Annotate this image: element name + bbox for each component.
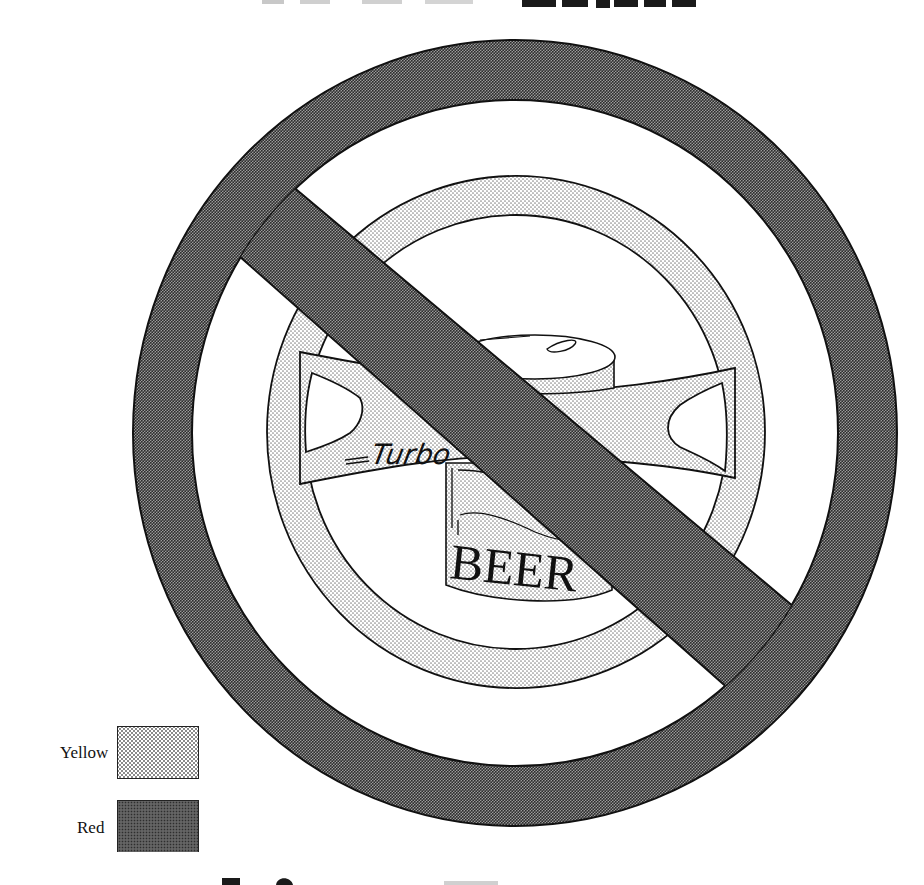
- bottom-title-fragment: [222, 878, 498, 885]
- legend-swatch-red: [117, 800, 199, 852]
- top-title-fragment: [262, 0, 696, 8]
- turbo-text: Turbo: [369, 438, 453, 471]
- legend-label-yellow: Yellow: [60, 743, 108, 763]
- legend-swatch-yellow: [117, 726, 199, 779]
- legend-label-red: Red: [77, 818, 104, 838]
